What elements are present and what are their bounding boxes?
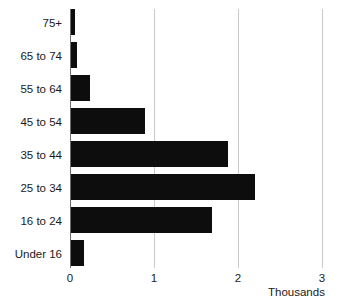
bar-25-to-34 — [70, 174, 255, 200]
x-tick-label-0: 0 — [55, 272, 85, 284]
category-label-45-to-54: 45 to 54 — [0, 117, 62, 129]
category-label-55-to-64: 55 to 64 — [0, 84, 62, 96]
bar-row — [70, 207, 212, 233]
bar-row — [70, 240, 84, 266]
bar-row — [70, 174, 255, 200]
category-label-35-to-44: 35 to 44 — [0, 150, 62, 162]
bar-row — [70, 75, 90, 101]
plot-area — [70, 9, 322, 268]
x-axis-title: Thousands — [268, 286, 325, 298]
y-axis-line — [70, 9, 71, 268]
category-label-75-plus: 75+ — [0, 18, 62, 30]
x-tick-label-2: 2 — [223, 272, 253, 284]
bar-series — [70, 9, 322, 268]
bar-chart: 75+ 65 to 74 55 to 64 45 to 54 35 to 44 … — [0, 0, 350, 305]
category-label-under-16: Under 16 — [0, 249, 62, 261]
bar-row — [70, 141, 228, 167]
bar-row — [70, 108, 145, 134]
bar-16-to-24 — [70, 207, 212, 233]
bar-under-16 — [70, 240, 84, 266]
x-tick-label-1: 1 — [139, 272, 169, 284]
category-label-65-to-74: 65 to 74 — [0, 51, 62, 63]
x-tick-label-3: 3 — [307, 272, 337, 284]
category-label-25-to-34: 25 to 34 — [0, 183, 62, 195]
category-label-16-to-24: 16 to 24 — [0, 216, 62, 228]
bar-35-to-44 — [70, 141, 228, 167]
bar-45-to-54 — [70, 108, 145, 134]
bar-55-to-64 — [70, 75, 90, 101]
gridline-3 — [322, 9, 323, 268]
